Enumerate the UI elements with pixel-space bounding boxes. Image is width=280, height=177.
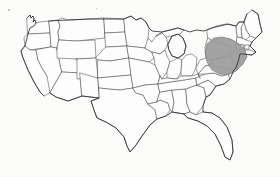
state-wyoming xyxy=(57,40,96,59)
state-kansas xyxy=(98,58,131,78)
state-washington xyxy=(27,15,50,34)
state-north-dakota xyxy=(104,18,125,33)
state-rhode-island xyxy=(245,45,249,49)
scan-speck xyxy=(8,9,10,11)
scan-speck xyxy=(96,8,97,9)
us-map-svg xyxy=(0,0,280,177)
us-map-figure xyxy=(0,0,280,177)
region-west xyxy=(21,15,105,101)
state-oklahoma xyxy=(98,75,133,90)
state-south-dakota xyxy=(105,32,127,47)
state-ohio xyxy=(181,54,197,76)
state-montana xyxy=(58,18,105,41)
